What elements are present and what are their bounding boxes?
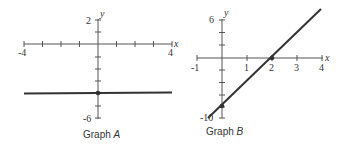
- graph-a-x-max: 4: [168, 47, 173, 58]
- graph-b-x-label-1: 1: [244, 62, 249, 73]
- graph-b-point-x-intercept: [270, 56, 275, 61]
- graph-b-x-label: x: [324, 52, 330, 63]
- graph-b-point-y-intercept: [220, 104, 225, 109]
- graph-b-x-label-4: 4: [319, 62, 324, 73]
- graph-a-y-label: y: [99, 8, 105, 19]
- graph-a-x-label: x: [173, 38, 179, 49]
- graph-a-x-min: -4: [18, 47, 26, 58]
- graph-b-y-label: y: [223, 7, 229, 18]
- graph-b-x-label-3: 3: [294, 62, 299, 73]
- figure: y x 2 -6 -4 4 Graph A: [0, 0, 345, 151]
- graph-b-caption: Graph B: [206, 126, 244, 137]
- graph-b-x-label-neg1: -1: [191, 62, 199, 73]
- graph-a: y x 2 -6 -4 4 Graph A: [18, 8, 179, 140]
- graph-a-y-max: 2: [86, 15, 91, 26]
- graph-b-x-label-2: 2: [269, 62, 274, 73]
- graph-b-y-min: -10: [200, 112, 213, 123]
- graph-a-y-min: -6: [83, 113, 91, 124]
- graph-b: y x 6 -10 -1 1 2 3 4 Graph B: [191, 7, 330, 137]
- graph-b-y-max: 6: [209, 14, 214, 25]
- graph-a-caption: Graph A: [83, 129, 121, 140]
- graph-b-line: [208, 9, 321, 118]
- graph-a-point: [96, 91, 101, 96]
